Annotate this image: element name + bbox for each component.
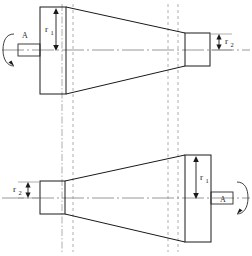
bottom-r2-label: r <box>13 184 16 194</box>
bottom-r2-dimension: r 2 <box>13 182 40 198</box>
bottom-cone-lower-edge <box>65 214 185 242</box>
bottom-base-rect <box>185 155 211 242</box>
top-r2-dimension: r 2 <box>210 34 234 50</box>
technical-drawing-figure: r 1 r 2 A <box>0 0 252 256</box>
bottom-r2-subscript: 2 <box>19 189 22 196</box>
top-r2-arrow-down-icon <box>216 45 221 51</box>
top-r2-arrow-up-icon <box>216 34 221 40</box>
bottom-r1-dimension: r 1 <box>193 156 209 199</box>
bottom-r1-subscript: 1 <box>206 177 209 184</box>
top-r1-label: r <box>45 24 48 34</box>
top-tip-rect <box>185 33 210 66</box>
top-cone-lower-edge <box>66 66 185 94</box>
bottom-r2-arrow-down-icon <box>25 193 30 199</box>
bottom-cone-upper-edge <box>65 155 185 181</box>
top-r1-dimension: r 1 <box>45 8 59 51</box>
top-cone-upper-edge <box>66 7 185 33</box>
projection-line-group <box>62 4 178 252</box>
lower-frustum-view: r 1 r 2 A <box>2 155 250 242</box>
bottom-r2-arrow-up-icon <box>25 182 30 188</box>
top-rotation-label: A <box>22 31 28 40</box>
top-r1-subscript: 1 <box>51 29 54 36</box>
top-r2-subscript: 2 <box>231 41 234 48</box>
bottom-tip-rect <box>40 181 65 214</box>
top-r2-label: r <box>225 36 228 46</box>
bottom-rotation-label: A <box>220 195 226 204</box>
upper-frustum-view: r 1 r 2 A <box>2 7 250 94</box>
top-r1-arrow-up-icon <box>53 8 59 14</box>
bottom-r1-arrow-up-icon <box>193 156 199 162</box>
bottom-r1-label: r <box>200 172 203 182</box>
